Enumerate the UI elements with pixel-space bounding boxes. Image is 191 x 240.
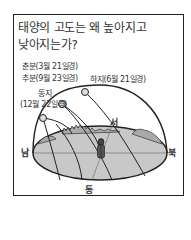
sun-winter-solstice	[40, 115, 47, 122]
label-winter-solstice-name: 동지	[38, 89, 51, 99]
observer-figure	[98, 139, 105, 159]
label-spring-equinox: 춘분(3월 21일경)	[22, 62, 78, 72]
label-summer-solstice: 하지(6월 21일경)	[90, 75, 146, 85]
direction-east: 동	[85, 183, 93, 196]
direction-west: 서	[110, 116, 118, 129]
direction-north: 북	[168, 146, 176, 159]
label-autumn-equinox: 추분(9월 23일경)	[22, 74, 78, 84]
direction-south: 남	[21, 146, 29, 159]
sun-summer-solstice	[82, 89, 89, 96]
label-winter-solstice-date: (12월 22일경)	[20, 100, 67, 110]
